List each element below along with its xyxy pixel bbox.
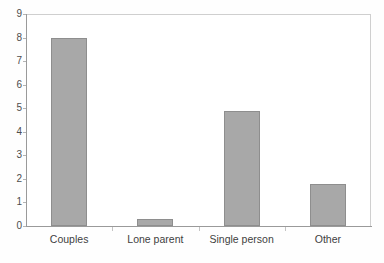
y-axis-tick-label: 4 <box>2 127 22 137</box>
y-axis-tick-label: 6 <box>2 80 22 90</box>
bar[interactable] <box>137 219 173 226</box>
y-axis-tick-label: 1 <box>2 197 22 207</box>
bar-chart-figure: 0123456789 CouplesLone parentSingle pers… <box>0 0 384 263</box>
bar[interactable] <box>51 38 87 226</box>
y-axis-tick-label: 3 <box>2 150 22 160</box>
x-axis-tick-label: Lone parent <box>112 233 198 246</box>
bars-layer <box>26 14 371 226</box>
y-axis-tick-label: 8 <box>2 33 22 43</box>
y-axis-tick-label: 7 <box>2 56 22 66</box>
x-axis-tick-labels: CouplesLone parentSingle personOther <box>26 233 371 249</box>
bar-slot <box>199 14 285 226</box>
bar[interactable] <box>310 184 346 226</box>
x-axis-tick-mark <box>112 227 113 231</box>
y-axis-tick-label: 2 <box>2 174 22 184</box>
y-axis-tick-label: 0 <box>2 221 22 231</box>
y-axis-tick-labels: 0123456789 <box>0 0 22 263</box>
bar-slot <box>285 14 371 226</box>
x-axis-tick-mark <box>285 227 286 231</box>
bar-slot <box>112 14 198 226</box>
x-axis-tick-mark <box>199 227 200 231</box>
x-axis-tick-label: Other <box>285 233 371 246</box>
x-axis-tick-label: Single person <box>199 233 285 246</box>
y-axis-tick-label: 9 <box>2 9 22 19</box>
bar[interactable] <box>224 111 260 226</box>
x-axis-tick-marks <box>26 227 371 232</box>
bar-slot <box>26 14 112 226</box>
x-axis-tick-label: Couples <box>26 233 112 246</box>
y-axis-tick-label: 5 <box>2 103 22 113</box>
